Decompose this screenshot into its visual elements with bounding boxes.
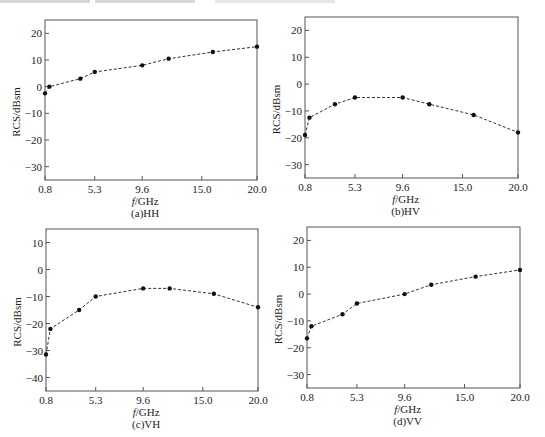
x-tick-label: 15.0 bbox=[193, 394, 213, 406]
chart-panel-d: 20100−10−20−300.85.39.615.020.0RCS/dBsmf… bbox=[272, 227, 530, 428]
x-tick-label: 0.8 bbox=[300, 391, 314, 403]
panel-caption: (c)VH bbox=[132, 418, 160, 431]
data-series-line bbox=[307, 270, 520, 339]
data-point-marker bbox=[305, 336, 309, 340]
chart-panel-b: 20100−10−20−300.85.39.615.020.0RCS/dBsmf… bbox=[270, 17, 528, 218]
y-tick-label: −10 bbox=[285, 105, 303, 117]
data-point-marker bbox=[255, 44, 259, 48]
chart-panel-c: 100−10−20−30−400.85.39.615.020.0RCS/dBsm… bbox=[11, 229, 268, 431]
y-tick-label: 10 bbox=[293, 261, 305, 273]
y-tick-label: 20 bbox=[291, 24, 303, 36]
y-tick-label: −30 bbox=[26, 345, 44, 357]
data-point-marker bbox=[47, 84, 51, 88]
data-point-marker bbox=[256, 305, 260, 309]
x-tick-label: 20.0 bbox=[510, 391, 530, 403]
x-axis-label: f/GHz bbox=[133, 406, 160, 418]
y-tick-label: 0 bbox=[38, 264, 44, 276]
data-point-marker bbox=[141, 286, 145, 290]
data-point-marker bbox=[516, 130, 520, 134]
y-tick-label: −10 bbox=[287, 315, 305, 327]
panel-caption: (d)VV bbox=[393, 415, 422, 428]
y-tick-label: 10 bbox=[32, 237, 44, 249]
y-tick-label: −20 bbox=[287, 342, 305, 354]
plot-frame bbox=[307, 227, 520, 388]
y-tick-label: −20 bbox=[25, 134, 43, 146]
data-point-marker bbox=[77, 308, 81, 312]
x-tick-label: 0.8 bbox=[298, 181, 312, 193]
y-tick-label: −40 bbox=[26, 372, 44, 384]
data-point-marker bbox=[167, 286, 171, 290]
x-tick-label: 20.0 bbox=[508, 181, 528, 193]
data-point-marker bbox=[355, 301, 359, 305]
data-point-marker bbox=[211, 50, 215, 54]
data-point-marker bbox=[43, 91, 47, 95]
data-point-marker bbox=[140, 63, 144, 67]
y-axis-label: RCS/dBsm bbox=[270, 84, 282, 134]
y-tick-label: −10 bbox=[26, 291, 44, 303]
data-point-marker bbox=[44, 352, 48, 356]
y-tick-label: 0 bbox=[297, 78, 303, 90]
data-point-marker bbox=[48, 327, 52, 331]
x-tick-label: 15.0 bbox=[453, 181, 473, 193]
y-tick-label: 20 bbox=[31, 27, 43, 39]
y-tick-label: −30 bbox=[25, 161, 43, 173]
x-tick-label: 20.0 bbox=[248, 394, 268, 406]
x-tick-label: 0.8 bbox=[39, 394, 53, 406]
data-point-marker bbox=[340, 312, 344, 316]
data-point-marker bbox=[402, 292, 406, 296]
data-point-marker bbox=[353, 95, 357, 99]
plot-frame bbox=[305, 17, 518, 178]
data-point-marker bbox=[166, 56, 170, 60]
y-tick-label: −10 bbox=[25, 107, 43, 119]
data-point-marker bbox=[307, 115, 311, 119]
x-axis-label: f/GHz bbox=[132, 195, 159, 207]
data-series-line bbox=[305, 98, 518, 136]
y-tick-label: 20 bbox=[293, 234, 305, 246]
data-point-marker bbox=[212, 292, 216, 296]
data-point-marker bbox=[333, 102, 337, 106]
y-tick-label: −20 bbox=[26, 318, 44, 330]
x-tick-label: 20.0 bbox=[247, 183, 267, 195]
x-tick-label: 5.3 bbox=[88, 183, 102, 195]
data-point-marker bbox=[78, 76, 82, 80]
panel-caption: (a)HH bbox=[131, 207, 159, 220]
data-point-marker bbox=[92, 70, 96, 74]
y-tick-label: 0 bbox=[299, 288, 305, 300]
data-point-marker bbox=[427, 102, 431, 106]
x-tick-label: 9.6 bbox=[136, 394, 150, 406]
data-point-marker bbox=[429, 282, 433, 286]
x-axis-label: f/GHz bbox=[392, 193, 419, 205]
data-point-marker bbox=[93, 294, 97, 298]
chart-panel-a: 20100−10−20−300.85.39.615.020.0RCS/dBsmf… bbox=[10, 20, 267, 220]
x-tick-label: 15.0 bbox=[455, 391, 475, 403]
x-tick-label: 5.3 bbox=[350, 391, 364, 403]
x-axis-label: f/GHz bbox=[394, 403, 421, 415]
data-point-marker bbox=[303, 133, 307, 137]
y-axis-label: RCS/dBsm bbox=[11, 297, 23, 347]
x-tick-label: 9.6 bbox=[398, 391, 412, 403]
x-tick-label: 5.3 bbox=[89, 394, 103, 406]
y-tick-label: −30 bbox=[285, 159, 303, 171]
data-series-line bbox=[46, 288, 258, 354]
data-series-line bbox=[45, 47, 257, 94]
y-axis-label: RCS/dBsm bbox=[272, 294, 284, 344]
x-tick-label: 5.3 bbox=[348, 181, 362, 193]
data-point-marker bbox=[518, 268, 522, 272]
rcs-frequency-figure: 20100−10−20−300.85.39.615.020.0RCS/dBsmf… bbox=[0, 0, 545, 437]
data-point-marker bbox=[309, 324, 313, 328]
panel-caption: (b)HV bbox=[391, 205, 420, 218]
x-tick-label: 0.8 bbox=[38, 183, 52, 195]
y-axis-label: RCS/dBsm bbox=[10, 87, 22, 137]
x-tick-label: 9.6 bbox=[135, 183, 149, 195]
y-tick-label: −30 bbox=[287, 369, 305, 381]
x-tick-label: 15.0 bbox=[192, 183, 212, 195]
y-tick-label: −20 bbox=[285, 132, 303, 144]
y-tick-label: 0 bbox=[37, 81, 43, 93]
x-tick-label: 9.6 bbox=[396, 181, 410, 193]
data-point-marker bbox=[473, 274, 477, 278]
plot-frame bbox=[45, 20, 257, 180]
y-tick-label: 10 bbox=[31, 54, 43, 66]
data-point-marker bbox=[471, 113, 475, 117]
y-tick-label: 10 bbox=[291, 51, 303, 63]
data-point-marker bbox=[400, 95, 404, 99]
